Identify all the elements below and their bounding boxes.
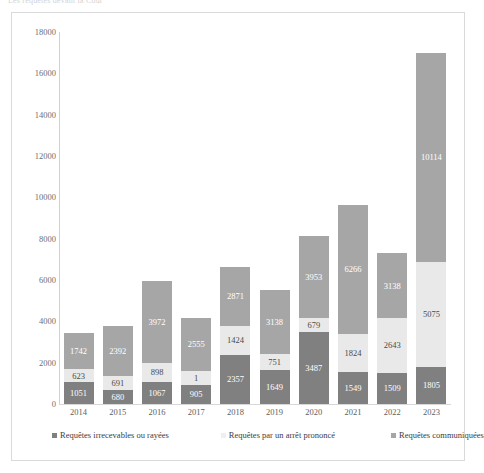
bar-segment[interactable]: 5075	[416, 262, 446, 367]
bar-value-label: 3972	[149, 318, 166, 327]
y-tick-label: 6000	[16, 275, 56, 285]
bar-value-label: 1424	[227, 336, 244, 345]
bar-segment[interactable]: 623	[64, 369, 94, 382]
bar-value-label: 905	[190, 390, 203, 399]
bar-value-label: 2871	[227, 292, 244, 301]
bar-value-label: 3487	[305, 364, 322, 373]
bar-value-label: 1067	[149, 389, 166, 398]
bar-value-label: 5075	[423, 310, 440, 319]
bar-value-label: 680	[111, 393, 124, 402]
x-axis-line	[59, 404, 451, 405]
legend-swatch-icon	[52, 433, 57, 438]
bar-segment[interactable]: 1051	[64, 382, 94, 404]
legend-item[interactable]: Requêtes par un arrêt prononcé	[221, 430, 335, 440]
bar-value-label: 1805	[423, 381, 440, 390]
bar-column[interactable]: 31387511649	[260, 290, 290, 404]
bar-value-label: 3138	[266, 318, 283, 327]
bar-value-label: 1649	[266, 383, 283, 392]
bar-segment[interactable]: 679	[299, 318, 329, 332]
bar-value-label: 679	[307, 321, 320, 330]
chart-frame: 0200040006000800010000120001400016000180…	[11, 12, 465, 461]
top-caption: Les requêtes devant la Cour	[8, 0, 308, 8]
legend-label: Requêtes communiquées	[399, 430, 484, 440]
bar-value-label: 3953	[305, 273, 322, 282]
bar-column[interactable]: 39728981067	[142, 281, 172, 404]
legend-item[interactable]: Requêtes irrecevables ou rayées	[52, 430, 169, 440]
legend-swatch-icon	[391, 433, 396, 438]
plot-area: 1742623105123926916803972898106725551905…	[59, 32, 451, 404]
bar-value-label: 691	[111, 379, 124, 388]
legend-swatch-icon	[221, 433, 226, 438]
bar-segment[interactable]: 2643	[377, 318, 407, 373]
bar-column[interactable]: 313826431509	[377, 253, 407, 404]
bar-segment[interactable]: 691	[103, 376, 133, 390]
bar-segment[interactable]: 1424	[220, 326, 250, 355]
bar-segment[interactable]: 3138	[260, 290, 290, 355]
bar-value-label: 1549	[345, 384, 362, 393]
y-tick-label: 18000	[16, 27, 56, 37]
bar-segment[interactable]: 1	[181, 371, 211, 385]
bar-segment[interactable]: 2555	[181, 318, 211, 371]
y-tick-label: 2000	[16, 358, 56, 368]
y-tick-label: 8000	[16, 234, 56, 244]
chart-legend: Requêtes irrecevables ou rayéesRequêtes …	[24, 427, 454, 443]
y-tick-label: 12000	[16, 151, 56, 161]
bar-column[interactable]: 2392691680	[103, 326, 133, 404]
x-axis-ticks: 2014201520162017201820192020202120222023	[59, 407, 451, 423]
bar-column[interactable]: 17426231051	[64, 333, 94, 404]
bar-segment[interactable]: 1067	[142, 382, 172, 404]
bar-value-label: 2643	[384, 341, 401, 350]
bar-value-label: 898	[151, 368, 164, 377]
bar-segment[interactable]: 3953	[299, 236, 329, 318]
y-axis-ticks: 0200040006000800010000120001400016000180…	[12, 32, 56, 404]
bar-column[interactable]: 39536793487	[299, 236, 329, 404]
bar-value-label: 10114	[421, 153, 442, 162]
bar-value-label: 3138	[384, 282, 401, 291]
bar-column[interactable]: 1011450751805	[416, 53, 446, 404]
bar-segment[interactable]: 3487	[299, 332, 329, 404]
bar-value-label: 1824	[345, 349, 362, 358]
bar-value-label: 6266	[345, 265, 362, 274]
bar-value-label: 1	[194, 374, 198, 383]
bar-value-label: 1742	[70, 347, 87, 356]
bar-column[interactable]: 25551905	[181, 318, 211, 404]
bar-segment[interactable]: 2871	[220, 267, 250, 326]
bar-segment[interactable]: 1742	[64, 333, 94, 369]
y-tick-label: 0	[16, 399, 56, 409]
bar-segment[interactable]: 680	[103, 390, 133, 404]
bar-segment[interactable]: 1549	[338, 372, 368, 404]
bar-segment[interactable]: 3972	[142, 281, 172, 363]
bar-value-label: 751	[268, 358, 281, 367]
y-tick-label: 14000	[16, 110, 56, 120]
bar-value-label: 1509	[384, 384, 401, 393]
legend-label: Requêtes par un arrêt prononcé	[229, 430, 335, 440]
bar-value-label: 2357	[227, 375, 244, 384]
bar-segment[interactable]: 1649	[260, 370, 290, 404]
bar-segment[interactable]: 905	[181, 385, 211, 404]
bar-column[interactable]: 287114242357	[220, 267, 250, 404]
bar-segment[interactable]: 6266	[338, 205, 368, 334]
legend-item[interactable]: Requêtes communiquées	[391, 430, 484, 440]
y-tick-label: 4000	[16, 316, 56, 326]
legend-label: Requêtes irrecevables ou rayées	[60, 430, 169, 440]
x-tick-label: 2023	[405, 407, 457, 417]
bar-segment[interactable]: 1824	[338, 334, 368, 372]
bar-value-label: 623	[72, 372, 85, 381]
bar-segment[interactable]: 2392	[103, 326, 133, 375]
bar-segment[interactable]: 2357	[220, 355, 250, 404]
bar-segment[interactable]: 1805	[416, 367, 446, 404]
y-tick-label: 16000	[16, 68, 56, 78]
bar-segment[interactable]: 751	[260, 354, 290, 370]
bar-segment[interactable]: 10114	[416, 53, 446, 262]
bar-column[interactable]: 626618241549	[338, 205, 368, 404]
bar-value-label: 2392	[109, 347, 126, 356]
bar-value-label: 1051	[70, 389, 87, 398]
bar-segment[interactable]: 1509	[377, 373, 407, 404]
bar-value-label: 2555	[188, 340, 205, 349]
bar-segment[interactable]: 898	[142, 363, 172, 382]
bar-segment[interactable]: 3138	[377, 253, 407, 318]
y-tick-label: 10000	[16, 192, 56, 202]
